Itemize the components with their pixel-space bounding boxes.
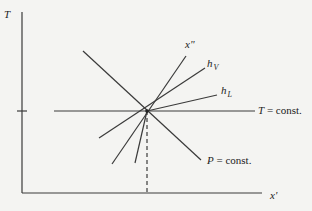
phase-diagram: T x' x" hV hL T = const. P = const. [0,0,312,211]
x-double-prime-label: x" [184,38,195,50]
p-const-label: P = const. [206,154,252,166]
t-const-label: T = const. [258,104,302,116]
diagram-svg: T x' x" hV hL T = const. P = const. [0,0,312,211]
y-axis-label: T [4,8,11,20]
h-l-label: hL [221,84,233,99]
h-l-lower-line [135,111,147,163]
intersection-point [145,109,149,113]
x-axis-label: x' [269,189,278,201]
h-v-label: hV [207,57,220,72]
h-v-line [99,68,205,138]
p-const-line [83,51,201,160]
